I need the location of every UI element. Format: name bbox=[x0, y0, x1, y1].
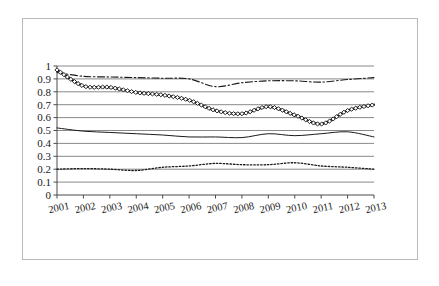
x-axis-tick-label: 2007 bbox=[206, 200, 229, 215]
figure-frame: 00.10.20.30.40.50.60.70.80.91 2001200220… bbox=[22, 18, 418, 260]
data-point-marker bbox=[150, 92, 154, 96]
x-axis-tick-label: 2012 bbox=[338, 200, 361, 215]
data-point-marker bbox=[163, 93, 167, 97]
data-point-marker bbox=[370, 103, 374, 107]
x-axis-tick-label: 2013 bbox=[364, 200, 387, 215]
y-axis-tick-labels: 00.10.20.30.40.50.60.70.80.91 bbox=[37, 60, 51, 201]
data-point-marker bbox=[264, 105, 268, 109]
x-axis-tick-label: 2010 bbox=[285, 200, 308, 215]
data-point-marker bbox=[240, 112, 244, 116]
data-point-marker bbox=[109, 85, 113, 89]
data-point-marker bbox=[113, 86, 117, 90]
data-point-marker bbox=[219, 110, 223, 114]
x-axis-tick-label: 2006 bbox=[179, 200, 202, 215]
x-axis-tick-label: 2011 bbox=[312, 200, 334, 215]
series-diamond-markers-line bbox=[57, 70, 374, 124]
data-point-marker bbox=[358, 105, 362, 109]
y-axis-tick-label: 0.3 bbox=[37, 150, 51, 162]
y-axis-tick-label: 0.6 bbox=[37, 111, 51, 123]
data-point-marker bbox=[236, 112, 240, 116]
data-point-marker bbox=[121, 88, 125, 92]
data-point-marker bbox=[155, 92, 159, 96]
x-axis-tick-label: 2002 bbox=[74, 200, 97, 215]
data-point-marker bbox=[117, 87, 121, 91]
x-axis-tick-label: 2008 bbox=[232, 200, 255, 215]
x-axis-tick-label: 2004 bbox=[127, 200, 151, 215]
x-axis-tick-label: 2005 bbox=[153, 200, 176, 215]
series-dash-dot-upper bbox=[57, 72, 374, 86]
series-group bbox=[55, 68, 374, 171]
data-point-marker bbox=[320, 122, 324, 126]
data-point-marker bbox=[167, 94, 171, 98]
data-point-marker bbox=[268, 105, 272, 109]
y-axis-tick-label: 0 bbox=[46, 189, 52, 201]
data-point-marker bbox=[96, 85, 100, 89]
x-axis-tick-label: 2001 bbox=[47, 200, 70, 215]
data-point-marker bbox=[227, 111, 231, 115]
line-chart: 00.10.20.30.40.50.60.70.80.91 2001200220… bbox=[23, 19, 417, 259]
series-dash-dot-upper-line bbox=[57, 72, 374, 86]
y-axis-tick-label: 0.2 bbox=[37, 163, 51, 175]
data-point-marker bbox=[171, 95, 175, 99]
x-axis-tick-label: 2003 bbox=[100, 200, 123, 215]
data-point-marker bbox=[134, 90, 138, 94]
data-point-marker bbox=[130, 90, 134, 94]
data-point-marker bbox=[232, 112, 236, 116]
y-axis-tick-label: 0.9 bbox=[37, 73, 51, 85]
series-solid-mid bbox=[57, 128, 374, 138]
y-axis-ticks bbox=[54, 66, 58, 195]
data-point-marker bbox=[159, 93, 163, 97]
y-axis-tick-label: 0.8 bbox=[37, 86, 51, 98]
screenshot-page: 00.10.20.30.40.50.60.70.80.91 2001200220… bbox=[0, 0, 439, 286]
y-axis-tick-label: 0.4 bbox=[37, 137, 51, 149]
data-point-marker bbox=[92, 85, 96, 89]
data-point-marker bbox=[105, 85, 109, 89]
data-point-marker bbox=[175, 95, 179, 99]
y-axis-tick-label: 1 bbox=[46, 60, 52, 72]
y-axis-tick-label: 0.7 bbox=[37, 99, 51, 111]
x-axis-ticks bbox=[57, 195, 374, 199]
y-axis-tick-label: 0.5 bbox=[37, 124, 51, 136]
data-point-marker bbox=[88, 85, 92, 89]
data-point-marker bbox=[223, 111, 227, 115]
x-axis-tick-label: 2009 bbox=[259, 200, 282, 215]
series-solid-mid-line bbox=[57, 128, 374, 138]
x-axis-tick-labels: 2001200220032004200520062007200820092010… bbox=[47, 200, 387, 215]
y-axis-tick-label: 0.1 bbox=[37, 176, 51, 188]
